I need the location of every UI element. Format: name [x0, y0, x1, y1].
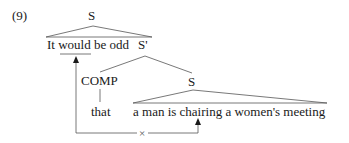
arrowheads	[73, 56, 201, 125]
arrow-up-icon	[195, 118, 201, 125]
arrow-up-icon	[73, 56, 79, 63]
tree-branches	[0, 0, 349, 143]
